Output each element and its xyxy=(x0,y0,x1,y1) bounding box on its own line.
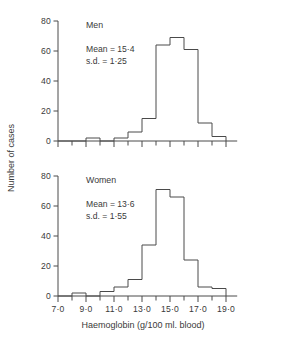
x-tick-label-4: 11·0 xyxy=(105,304,122,314)
x-tick-label-12: 19·0 xyxy=(217,304,235,314)
chart-svg: 020406080MenMean = 15·4s.d. = 1·25020406… xyxy=(0,0,283,343)
panel-mean-label-1: Mean = 13·6 xyxy=(86,199,135,209)
y-tick-label-0-0: 0 xyxy=(46,136,51,146)
y-tick-label-0-4: 80 xyxy=(41,16,51,26)
y-tick-label-1-1: 20 xyxy=(41,261,51,271)
y-tick-label-0-3: 60 xyxy=(41,46,51,56)
y-tick-label-0-2: 40 xyxy=(41,76,51,86)
panel-title-0: Men xyxy=(86,20,103,30)
panel-sd-label-1: s.d. = 1·55 xyxy=(86,211,127,221)
y-axis-title: Number of cases xyxy=(6,123,16,192)
y-tick-label-1-0: 0 xyxy=(46,291,51,301)
x-axis-title: Haemoglobin (g/100 ml. blood) xyxy=(81,320,204,330)
x-tick-label-0: 7·0 xyxy=(51,304,64,314)
x-tick-label-6: 13·0 xyxy=(133,304,151,314)
panel-mean-label-0: Mean = 15·4 xyxy=(86,44,135,54)
panel-sd-label-0: s.d. = 1·25 xyxy=(86,56,127,66)
x-tick-label-2: 9·0 xyxy=(79,304,92,314)
histogram-outline-1 xyxy=(58,190,226,297)
histogram-outline-0 xyxy=(58,38,226,142)
y-tick-label-0-1: 20 xyxy=(41,106,51,116)
panel-title-1: Women xyxy=(86,175,116,185)
y-tick-label-1-4: 80 xyxy=(41,171,51,181)
x-tick-label-10: 17·0 xyxy=(189,304,207,314)
histogram-figure: 020406080MenMean = 15·4s.d. = 1·25020406… xyxy=(0,0,283,343)
y-tick-label-1-3: 60 xyxy=(41,201,51,211)
x-tick-label-8: 15·0 xyxy=(161,304,179,314)
y-tick-label-1-2: 40 xyxy=(41,231,51,241)
